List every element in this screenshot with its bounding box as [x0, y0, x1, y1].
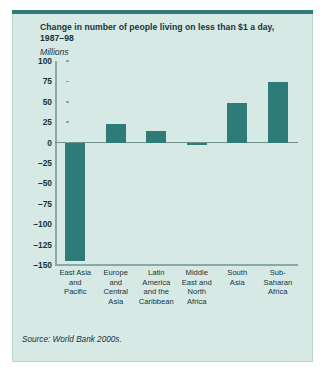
chart-title-line-1: Change in number of people living on les… [40, 22, 298, 33]
y-axis-tick-label: 25 [18, 117, 52, 127]
x-axis-category-label: EuropeandCentralAsia [96, 268, 137, 306]
x-axis-category-label-line: North [177, 287, 218, 297]
x-axis-category-label-line: Africa [177, 297, 218, 307]
bar [187, 143, 207, 146]
bar [146, 131, 166, 142]
x-axis-category-label: MiddleEast andNorthAfrica [177, 268, 218, 306]
x-axis-category-labels: East AsiaandPacificEuropeandCentralAsiaL… [55, 268, 298, 330]
x-axis-category-label-line: Central [96, 287, 137, 297]
x-axis-category-label-line: and [55, 278, 96, 288]
y-axis-tick-label: 75 [18, 76, 52, 86]
x-axis-category-label-line: Latin [136, 268, 177, 278]
y-axis-tick-label: –150 [18, 260, 52, 270]
chart-figure: Change in number of people living on les… [0, 0, 325, 380]
x-axis-category-label-line: America [136, 278, 177, 288]
y-axis-tick-label: –50 [18, 178, 52, 188]
x-axis-category-label-line: Caribbean [136, 297, 177, 307]
y-axis-tick-label: –25 [18, 158, 52, 168]
y-axis-tick-label: 0 [18, 138, 52, 148]
x-axis-category-label-line: Europe [96, 268, 137, 278]
x-axis-category-label-line: Pacific [55, 287, 96, 297]
x-axis-category-label: Sub-SaharanAfrica [258, 268, 299, 297]
chart-title-line-2: 1987–98 [40, 33, 298, 44]
x-axis-category-label: East AsiaandPacific [55, 268, 96, 297]
x-axis-category-label-line: Asia [96, 297, 137, 307]
x-axis-category-label-line: South [217, 268, 258, 278]
x-axis-category-label-line: Africa [258, 287, 299, 297]
bar [65, 143, 85, 261]
x-axis-category-label-line: Saharan [258, 278, 299, 288]
source-note: Source: World Bank 2000s. [22, 335, 122, 344]
x-axis-category-label-line: Middle [177, 268, 218, 278]
x-axis-category-label-line: East Asia [55, 268, 96, 278]
x-axis-category-label-line: and the [136, 287, 177, 297]
panel-top-rule [12, 10, 313, 14]
x-axis-category-label: SouthAsia [217, 268, 258, 287]
y-axis-tick-label: 50 [18, 97, 52, 107]
chart-title: Change in number of people living on les… [40, 22, 298, 44]
x-axis-category-label-line: Asia [217, 278, 258, 288]
x-axis-category-label-line: East and [177, 278, 218, 288]
x-axis-category-label-line: Sub- [258, 268, 299, 278]
y-axis-tick-labels: 1007550250–25–50–75–100–125–150 [14, 61, 52, 265]
x-axis-category-label-line: and [96, 278, 137, 288]
y-axis-tick-label: 100 [18, 56, 52, 66]
bar [106, 124, 126, 143]
y-axis-tick-label: –100 [18, 219, 52, 229]
x-axis-category-label: LatinAmericaand theCaribbean [136, 268, 177, 306]
y-axis-tick-label: –125 [18, 240, 52, 250]
y-axis-tick-label: –75 [18, 199, 52, 209]
bar [227, 103, 247, 142]
plot-area [55, 61, 298, 265]
bar [268, 82, 288, 142]
